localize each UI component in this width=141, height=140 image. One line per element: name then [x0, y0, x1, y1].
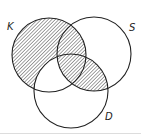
venn-diagram: K S D — [0, 0, 141, 140]
label-k: K — [7, 21, 14, 32]
venn-svg — [0, 0, 141, 140]
bottom-divider — [0, 133, 141, 134]
label-s: S — [129, 22, 135, 33]
label-d: D — [105, 111, 113, 122]
